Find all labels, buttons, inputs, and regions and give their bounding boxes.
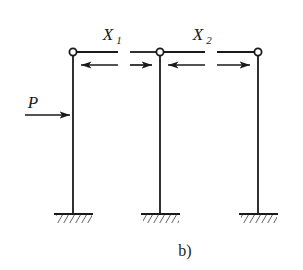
x1-label-subscript: 1 bbox=[116, 34, 122, 46]
x2-label-subscript: 2 bbox=[206, 34, 212, 46]
figure-caption: b) bbox=[178, 242, 191, 260]
applied-load-label: P bbox=[27, 93, 38, 112]
pin-joint-right bbox=[254, 48, 261, 55]
x1-label-symbol: X bbox=[102, 25, 114, 44]
pin-joint-middle bbox=[156, 48, 163, 55]
right-support-hatching bbox=[241, 214, 277, 223]
pin-joint-left bbox=[69, 48, 76, 55]
right-support bbox=[239, 214, 278, 223]
left-support bbox=[54, 214, 93, 223]
middle-support bbox=[141, 214, 180, 223]
x2-label-symbol: X bbox=[192, 25, 204, 44]
middle-support-hatching bbox=[143, 214, 179, 223]
left-support-hatching bbox=[56, 214, 92, 223]
diagram-canvas: X 1 X 2 P b) bbox=[0, 0, 303, 270]
structural-frame-diagram: X 1 X 2 P b) bbox=[0, 0, 303, 270]
